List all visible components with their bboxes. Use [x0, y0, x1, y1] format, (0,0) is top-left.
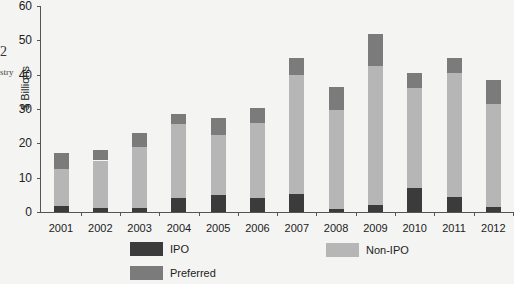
bar-segment-preferred [329, 87, 344, 110]
legend-swatch-ipo [130, 242, 163, 256]
x-tick-label: 2006 [238, 222, 278, 234]
bar-segment-preferred [93, 150, 108, 161]
x-tick-mark [316, 212, 317, 216]
y-tick-label: 40 [10, 68, 32, 82]
y-tick-label: 30 [10, 102, 32, 116]
x-tick-mark [120, 212, 121, 216]
y-tick-mark [37, 6, 41, 7]
y-tick-mark [37, 109, 41, 110]
y-tick-mark [37, 178, 41, 179]
bar-segment-ipo [171, 198, 186, 212]
bar-segment-ipo [211, 195, 226, 212]
y-tick-mark [37, 75, 41, 76]
bar-segment-ipo [93, 208, 108, 212]
x-tick-mark [356, 212, 357, 216]
x-tick-label: 2011 [434, 222, 474, 234]
x-tick-mark [199, 212, 200, 216]
bar-segment-non-ipo [93, 161, 108, 209]
bar-segment-non-ipo [289, 75, 304, 194]
x-tick-label: 2012 [473, 222, 513, 234]
bar-segment-non-ipo [407, 88, 422, 188]
x-tick-mark [277, 212, 278, 216]
bar-segment-preferred [486, 80, 501, 104]
bar-segment-preferred [54, 153, 69, 169]
x-tick-label: 2010 [395, 222, 435, 234]
bar-segment-ipo [447, 197, 462, 212]
y-tick-mark [37, 212, 41, 213]
bar-segment-preferred [211, 118, 226, 135]
bar-segment-preferred [447, 58, 462, 72]
bar-segment-preferred [171, 114, 186, 124]
bar-segment-ipo [132, 208, 147, 212]
x-tick-label: 2007 [277, 222, 317, 234]
bar-segment-non-ipo [211, 135, 226, 194]
legend-label-preferred: Preferred [170, 267, 216, 279]
bar-segment-ipo [329, 209, 344, 212]
x-tick-mark [474, 212, 475, 216]
legend-swatch-preferred [130, 266, 163, 280]
bar-segment-non-ipo [54, 169, 69, 206]
y-tick-label: 60 [10, 0, 32, 13]
x-tick-mark [159, 212, 160, 216]
y-tick-label: 20 [10, 136, 32, 150]
bar-segment-preferred [132, 133, 147, 147]
bar-segment-ipo [250, 198, 265, 212]
x-tick-mark [81, 212, 82, 216]
bar-segment-non-ipo [368, 66, 383, 205]
x-tick-mark [238, 212, 239, 216]
bar-segment-ipo [54, 206, 69, 212]
bar-segment-non-ipo [171, 124, 186, 199]
x-tick-mark [434, 212, 435, 216]
bar-segment-ipo [368, 205, 383, 212]
bar-segment-preferred [407, 73, 422, 88]
x-tick-mark [395, 212, 396, 216]
bar-segment-preferred [368, 34, 383, 67]
bar-segment-ipo [486, 207, 501, 212]
y-tick-mark [37, 143, 41, 144]
bar-segment-preferred [289, 58, 304, 76]
y-tick-label: 0 [10, 205, 32, 219]
legend-label-ipo: IPO [170, 243, 189, 255]
y-tick-label: 10 [10, 171, 32, 185]
bar-segment-ipo [407, 188, 422, 212]
x-tick-label: 2008 [316, 222, 356, 234]
x-tick-label: 2009 [355, 222, 395, 234]
page-fragment-number: 2 [0, 44, 7, 60]
bar-segment-non-ipo [447, 73, 462, 197]
bar-segment-ipo [289, 194, 304, 212]
x-tick-label: 2005 [198, 222, 238, 234]
x-tick-label: 2004 [159, 222, 199, 234]
y-tick-label: 50 [10, 33, 32, 47]
x-tick-label: 2002 [80, 222, 120, 234]
x-tick-label: 2003 [120, 222, 160, 234]
legend-label-non-ipo: Non-IPO [366, 244, 409, 256]
bar-segment-non-ipo [329, 110, 344, 209]
legend-swatch-non-ipo [326, 243, 359, 257]
bar-segment-non-ipo [486, 104, 501, 207]
y-tick-mark [37, 40, 41, 41]
bar-segment-non-ipo [250, 123, 265, 199]
x-tick-label: 2001 [41, 222, 81, 234]
bar-segment-non-ipo [132, 147, 147, 208]
bar-segment-preferred [250, 108, 265, 122]
